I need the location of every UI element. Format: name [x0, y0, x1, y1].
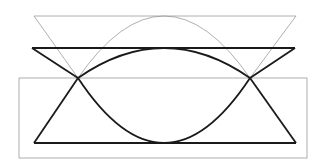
upper-gray-figure	[34, 16, 296, 78]
middle-black-left-diagonal	[32, 48, 78, 78]
diagram-canvas	[0, 0, 325, 168]
upper-gray-left-diagonal	[34, 16, 78, 78]
middle-black-figure	[32, 48, 295, 78]
lower-black-figure	[34, 78, 296, 143]
lower-black-arc	[78, 78, 250, 143]
gray-frame-rect	[19, 78, 307, 158]
upper-gray-right-diagonal	[250, 16, 296, 78]
upper-gray-arc	[78, 16, 250, 78]
lower-black-right-diagonal	[250, 78, 296, 143]
lower-black-left-diagonal	[34, 78, 78, 143]
middle-black-arc	[78, 48, 250, 78]
middle-black-right-diagonal	[250, 48, 295, 78]
